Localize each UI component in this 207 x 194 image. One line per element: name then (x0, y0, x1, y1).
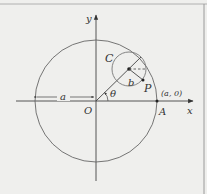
theta-arc (105, 93, 109, 102)
radius-b-label: b (128, 77, 134, 88)
radius-a-label: a (60, 91, 66, 102)
y-axis-label: y (85, 13, 92, 24)
x-axis-label: x (187, 105, 193, 116)
point-A-label: A (158, 106, 166, 117)
circle-C-label: C (105, 52, 114, 65)
point-A-marker (156, 100, 159, 103)
theta-label: θ (110, 88, 116, 99)
diagram-canvas: a θ C b P (a, 0) A x y O (0, 0, 207, 194)
point-A-coordinate: (a, 0) (161, 89, 182, 98)
point-P-label: P (143, 82, 152, 95)
origin-label: O (84, 105, 92, 116)
